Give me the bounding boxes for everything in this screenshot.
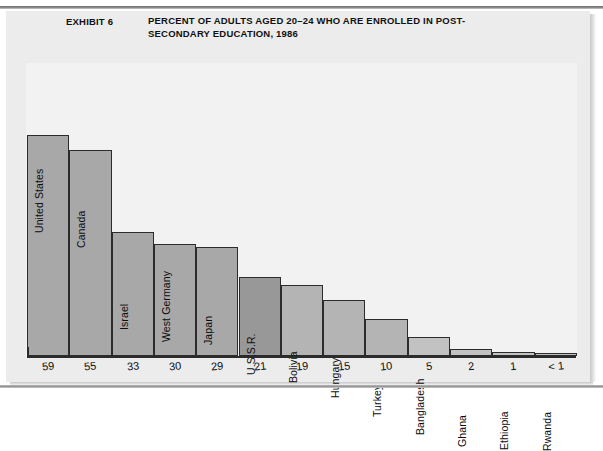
bar-value-label: 1 — [492, 358, 535, 374]
bar-category-label: United States — [33, 169, 45, 233]
bar-column: Bangladesh — [408, 61, 450, 356]
bar-column: Hungary — [323, 61, 365, 356]
bar-category-label: Rwanda — [541, 412, 553, 451]
y-axis-tick — [27, 347, 29, 358]
bar-value-label: 30 — [153, 358, 196, 374]
bar-column: Ghana — [450, 61, 492, 356]
title-line-2: SECONDARY EDUCATION, 1986 — [148, 28, 465, 41]
bar-value-label: 29 — [196, 358, 239, 374]
exhibit-number-label: EXHIBIT 6 — [66, 15, 148, 27]
title-line-1: PERCENT OF ADULTS AGED 20–24 WHO ARE ENR… — [148, 15, 465, 28]
bar — [69, 150, 111, 356]
value-label-row: 595533302921191510521< 1 — [26, 360, 577, 380]
exhibit-title-block: EXHIBIT 6 PERCENT OF ADULTS AGED 20–24 W… — [66, 15, 536, 40]
bar — [365, 319, 407, 356]
bar-category-label: Japan — [202, 316, 214, 345]
bar-value-label: 59 — [26, 358, 69, 374]
bar — [450, 349, 492, 356]
page-top-rule — [0, 6, 603, 9]
bar-column: Bolivia — [281, 61, 323, 356]
bar-value-label: 55 — [69, 358, 112, 374]
bar-value-label: 19 — [280, 358, 323, 374]
stacked-page-tab-4 — [6, 47, 94, 61]
bar-column: Rwanda — [535, 61, 577, 356]
bar-column: West Germany — [154, 61, 196, 356]
bar-value-label: 15 — [323, 358, 366, 374]
bar-category-label: West Germany — [160, 271, 172, 342]
bar-category-label: Turkey — [371, 384, 383, 416]
bar-series: United StatesCanadaIsraelWest GermanyJap… — [26, 63, 577, 358]
bar-value-label: 33 — [111, 358, 154, 374]
bar — [281, 285, 323, 356]
bar-category-label: Canada — [75, 211, 87, 248]
bar-category-label: Ghana — [456, 414, 468, 446]
bar — [408, 337, 450, 356]
bar-value-label: 5 — [407, 358, 450, 374]
bar-column: Ethiopia — [492, 61, 534, 356]
bar-column: Japan — [196, 61, 238, 356]
card-shadow-right — [590, 14, 596, 382]
chart-plot-area: United StatesCanadaIsraelWest GermanyJap… — [26, 63, 577, 358]
bar — [323, 300, 365, 356]
bar-category-label: Israel — [118, 304, 130, 330]
bar-column: Turkey — [365, 61, 407, 356]
bar-value-label: 2 — [449, 358, 492, 374]
bar-column: United States — [27, 61, 69, 356]
bar — [112, 232, 154, 356]
bar-value-label: 10 — [365, 358, 408, 374]
bar-value-label: < 1 — [534, 358, 577, 374]
bar-value-label: 21 — [238, 358, 281, 374]
bar-category-label: Ethiopia — [498, 412, 510, 451]
bar-column: U.S.S.R. — [239, 61, 281, 356]
bar-column: Canada — [69, 61, 111, 356]
bar-column: Israel — [112, 61, 154, 356]
page-title: PERCENT OF ADULTS AGED 20–24 WHO ARE ENR… — [148, 15, 465, 40]
page-bottom-rule — [0, 385, 603, 388]
